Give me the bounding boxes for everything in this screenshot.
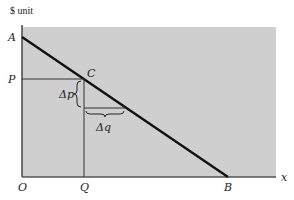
label-delta-p: Δp	[58, 88, 74, 101]
label-c: C	[87, 67, 96, 80]
label-a: A	[7, 31, 16, 44]
label-p: P	[7, 73, 16, 86]
label-o: O	[18, 181, 27, 194]
y-axis-label: $ unit	[10, 5, 33, 16]
x-axis-label: x	[281, 171, 288, 184]
label-q: Q	[80, 181, 89, 194]
label-b: B	[223, 181, 232, 194]
plot-area	[22, 27, 276, 177]
demand-diagram: $ unit A P C Δp Δq O Q B x	[0, 0, 294, 200]
label-delta-q: Δq	[95, 121, 111, 134]
